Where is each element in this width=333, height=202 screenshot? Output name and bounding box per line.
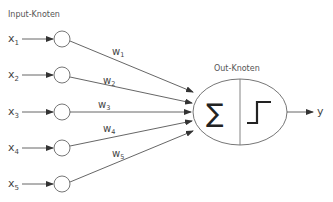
input-row-5: x5: [8, 176, 70, 192]
weight-label-w5: w5: [112, 148, 124, 161]
output-node-title: Out-Knoten: [214, 64, 260, 73]
input-row-4: x4: [8, 140, 70, 156]
output-label-y: y: [317, 105, 324, 118]
input-row-2: x2: [8, 67, 70, 83]
input-row-3: x3: [8, 104, 70, 120]
input-label-x2: x2: [8, 68, 19, 83]
weight-edge-5: [70, 131, 193, 182]
input-label-x1: x1: [8, 32, 19, 47]
perceptron-diagram: Input-Knoten x1 x2 x3 x4 x5 w1 w2 w3 w4 …: [0, 0, 333, 202]
input-node-2: [54, 67, 70, 83]
weight-label-w2: w2: [103, 75, 115, 88]
weight-label-w4: w4: [103, 123, 115, 136]
sum-icon: ∑: [206, 98, 224, 128]
input-node-5: [54, 176, 70, 192]
input-node-3: [54, 104, 70, 120]
input-label-x5: x5: [8, 177, 19, 192]
input-node-4: [54, 140, 70, 156]
input-row-1: x1: [8, 31, 70, 47]
output-node: ∑: [193, 79, 287, 145]
weight-edge-1: [70, 41, 193, 92]
weight-edge-4: [70, 121, 192, 146]
weight-label-w1: w1: [112, 46, 124, 59]
input-label-x4: x4: [8, 141, 20, 156]
input-label-x3: x3: [8, 105, 19, 120]
input-nodes-title: Input-Knoten: [8, 10, 60, 19]
weight-edge-2: [70, 77, 192, 103]
weight-label-w3: w3: [98, 99, 110, 112]
input-node-1: [54, 31, 70, 47]
